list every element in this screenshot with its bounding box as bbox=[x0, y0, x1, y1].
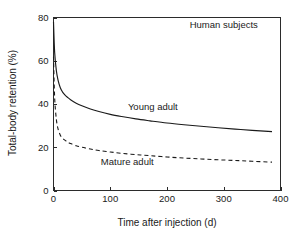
y-tick-label: 0 bbox=[43, 185, 48, 196]
y-axis-tick-labels: 020406080 bbox=[38, 12, 49, 196]
chart-annotations: Human subjectsYoung adultMature adult bbox=[101, 19, 258, 166]
x-tick-label: 300 bbox=[216, 193, 232, 204]
chart-figure: 0100200300400 020406080 Time after injec… bbox=[0, 0, 304, 236]
y-axis-title: Total-body retention (%) bbox=[7, 50, 18, 156]
x-axis-tick-labels: 0100200300400 bbox=[51, 193, 289, 204]
annotation-mature-adult: Mature adult bbox=[101, 156, 154, 167]
chart-canvas: 0100200300400 020406080 Time after injec… bbox=[0, 0, 304, 236]
y-tick-label: 20 bbox=[38, 142, 49, 153]
y-tick-label: 60 bbox=[38, 55, 49, 66]
annotation-young-adult: Young adult bbox=[128, 101, 178, 112]
x-tick-label: 400 bbox=[273, 193, 289, 204]
x-tick-label: 0 bbox=[51, 193, 56, 204]
y-tick-label: 80 bbox=[38, 12, 49, 23]
x-tick-label: 100 bbox=[102, 193, 118, 204]
y-tick-label: 40 bbox=[38, 98, 49, 109]
x-axis-title: Time after injection (d) bbox=[117, 217, 216, 228]
annotation-human-subjects: Human subjects bbox=[190, 19, 258, 30]
data-series-group bbox=[54, 22, 272, 162]
x-tick-label: 200 bbox=[159, 193, 175, 204]
series-line-young-adult bbox=[54, 22, 272, 132]
